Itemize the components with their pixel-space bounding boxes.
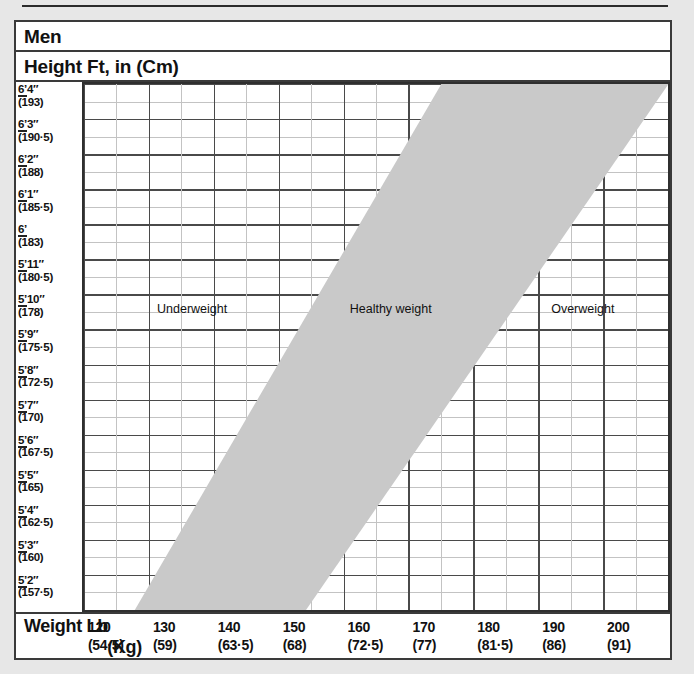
y-tick-cm: (167·5) xyxy=(18,446,82,459)
y-tick-label: 5’6″(167·5) xyxy=(18,434,82,459)
y-tick-mark xyxy=(18,551,27,553)
y-tick-feet: 5’10″ xyxy=(18,293,82,306)
y-tick-label: 6’3″(190·5) xyxy=(18,118,82,143)
x-axis-title: Weight Lb (Kg) xyxy=(24,616,144,658)
y-tick-label: 5’4″(162·5) xyxy=(18,504,82,529)
x-tick-kilograms: (68) xyxy=(283,636,307,654)
x-tick-pounds: 190 xyxy=(542,618,566,636)
x-tick-kilograms: (86) xyxy=(542,636,566,654)
y-tick-mark xyxy=(18,200,27,202)
y-tick-feet: 6’2″ xyxy=(18,153,82,166)
y-tick-cm: (157·5) xyxy=(18,586,82,599)
y-tick-cm: (185·5) xyxy=(18,201,82,214)
y-tick-feet: 5’9″ xyxy=(18,328,82,341)
chart-grid: UnderweightHealthy weightOverweight xyxy=(82,82,670,612)
y-tick-cm: (183) xyxy=(18,236,82,249)
x-tick-pounds: 160 xyxy=(348,618,384,636)
x-axis: Weight Lb (Kg) 120(54·5)130(59)140(63·5)… xyxy=(16,612,670,660)
y-tick-feet: 5’2″ xyxy=(18,574,82,587)
x-tick-label: 150(68) xyxy=(283,618,307,654)
y-tick-cm: (160) xyxy=(18,551,82,564)
y-tick-label: 5’5″(165) xyxy=(18,469,82,494)
y-tick-mark xyxy=(18,411,27,413)
gridline-vertical-major xyxy=(668,84,669,610)
x-axis-title-kg: (Kg) xyxy=(24,637,144,658)
zone-label-underweight: Underweight xyxy=(157,302,227,316)
x-tick-label: 170(77) xyxy=(412,618,436,654)
y-tick-mark xyxy=(18,340,27,342)
x-tick-label: 160(72·5) xyxy=(348,618,384,654)
zone-label-healthy-weight: Healthy weight xyxy=(350,302,432,316)
y-tick-feet: 5’5″ xyxy=(18,469,82,482)
y-axis-tick-labels: 6’4″(193)6’3″(190·5)6’2″(188)6’1″(185·5)… xyxy=(16,82,82,612)
healthy-weight-band xyxy=(84,84,668,610)
y-tick-feet: 6’4″ xyxy=(18,83,82,96)
chart-title-men: Men xyxy=(16,22,670,52)
y-tick-label: 5’2″(157·5) xyxy=(18,574,82,599)
x-tick-label: 190(86) xyxy=(542,618,566,654)
x-tick-pounds: 120 xyxy=(88,618,124,636)
y-tick-feet: 6’3″ xyxy=(18,118,82,131)
plot-area: 6’4″(193)6’3″(190·5)6’2″(188)6’1″(185·5)… xyxy=(16,82,670,660)
y-tick-feet: 5’11″ xyxy=(18,258,82,271)
y-tick-cm: (162·5) xyxy=(18,516,82,529)
y-tick-mark xyxy=(18,446,27,448)
y-tick-feet: 5’8″ xyxy=(18,364,82,377)
x-tick-pounds: 200 xyxy=(607,618,631,636)
y-tick-feet: 6’ xyxy=(18,223,82,236)
y-tick-cm: (188) xyxy=(18,166,82,179)
y-tick-cm: (175·5) xyxy=(18,341,82,354)
y-tick-feet: 5’4″ xyxy=(18,504,82,517)
y-tick-mark xyxy=(18,481,27,483)
y-tick-mark xyxy=(18,95,27,97)
y-tick-cm: (172·5) xyxy=(18,376,82,389)
y-axis-title: Height Ft, in (Cm) xyxy=(16,52,670,82)
y-tick-label: 5’8″(172·5) xyxy=(18,364,82,389)
x-tick-pounds: 130 xyxy=(153,618,177,636)
y-tick-label: 6’4″(193) xyxy=(18,83,82,108)
y-tick-label: 5’7″(170) xyxy=(18,399,82,424)
y-tick-cm: (165) xyxy=(18,481,82,494)
y-tick-cm: (190·5) xyxy=(18,131,82,144)
x-tick-pounds: 180 xyxy=(477,618,513,636)
y-tick-feet: 5’3″ xyxy=(18,539,82,552)
x-tick-label: 130(59) xyxy=(153,618,177,654)
y-tick-mark xyxy=(18,305,27,307)
y-tick-label: 5’10″(178) xyxy=(18,293,82,318)
y-tick-label: 6’(183) xyxy=(18,223,82,248)
x-tick-kilograms: (63·5) xyxy=(218,636,254,654)
y-tick-label: 6’1″(185·5) xyxy=(18,188,82,213)
y-tick-label: 5’3″(160) xyxy=(18,539,82,564)
top-divider-rule xyxy=(22,5,668,7)
x-tick-kilograms: (81·5) xyxy=(477,636,513,654)
y-tick-label: 5’11″(180·5) xyxy=(18,258,82,283)
x-tick-kilograms: (59) xyxy=(153,636,177,654)
x-tick-label: 120(54·5) xyxy=(88,618,124,654)
y-tick-mark xyxy=(18,130,27,132)
y-tick-mark xyxy=(18,270,27,272)
y-tick-mark xyxy=(18,235,27,237)
x-tick-pounds: 170 xyxy=(412,618,436,636)
x-tick-kilograms: (54·5) xyxy=(88,636,124,654)
x-tick-label: 180(81·5) xyxy=(477,618,513,654)
x-tick-kilograms: (72·5) xyxy=(348,636,384,654)
x-tick-pounds: 140 xyxy=(218,618,254,636)
zone-label-overweight: Overweight xyxy=(551,302,614,316)
y-tick-cm: (193) xyxy=(18,96,82,109)
y-tick-cm: (180·5) xyxy=(18,271,82,284)
x-tick-kilograms: (77) xyxy=(412,636,436,654)
y-tick-mark xyxy=(18,586,27,588)
y-tick-feet: 5’6″ xyxy=(18,434,82,447)
y-tick-mark xyxy=(18,165,27,167)
x-tick-pounds: 150 xyxy=(283,618,307,636)
x-tick-label: 140(63·5) xyxy=(218,618,254,654)
healthy-band-shape xyxy=(84,84,668,610)
y-tick-feet: 6’1″ xyxy=(18,188,82,201)
chart-panel: Men Height Ft, in (Cm) 6’4″(193)6’3″(190… xyxy=(14,20,672,660)
y-tick-label: 6’2″(188) xyxy=(18,153,82,178)
y-tick-label: 5’9″(175·5) xyxy=(18,328,82,353)
y-tick-mark xyxy=(18,516,27,518)
x-tick-label: 200(91) xyxy=(607,618,631,654)
y-tick-cm: (170) xyxy=(18,411,82,424)
x-tick-kilograms: (91) xyxy=(607,636,631,654)
